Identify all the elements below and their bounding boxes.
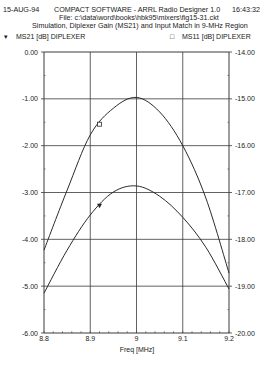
y-tick-label-left: -4.00 [22, 236, 38, 243]
y-tick-label-right: -18.00 [235, 236, 255, 243]
y-tick-label-left: -2.00 [22, 142, 38, 149]
y-tick-label-right: -16.00 [235, 142, 255, 149]
axes: 0.00-14.00-1.00-15.00-2.00-16.00-3.00-17… [22, 49, 255, 343]
legend-marker-ms21: ▾ [4, 33, 8, 40]
y-tick-label-right: -15.00 [235, 95, 255, 102]
x-tick-label: 9.2 [224, 335, 234, 342]
y-tick-label-left: -1.00 [22, 95, 38, 102]
y-tick-label-right: -20.00 [235, 330, 255, 337]
y-tick-label-left: -3.00 [22, 189, 38, 196]
y-tick-label-left: -6.00 [22, 330, 38, 337]
series-marker-square-icon [98, 122, 102, 126]
legend-label-ms21: MS21 [dB] DIPLEXER [16, 33, 85, 41]
y-tick-label-right: -17.00 [235, 189, 255, 196]
legend-marker-ms11: □ [170, 33, 175, 40]
legend-label-ms11: MS11 [dB] DIPLEXER [182, 33, 251, 41]
grid [44, 52, 229, 333]
y-tick-label-left: 0.00 [24, 49, 38, 56]
chart-canvas: 0.00-14.00-1.00-15.00-2.00-16.00-3.00-17… [0, 0, 276, 371]
x-tick-label: 9 [135, 335, 139, 342]
y-tick-label-right: -14.00 [235, 49, 255, 56]
y-tick-label-left: -5.00 [22, 283, 38, 290]
x-axis-label: Freq [MHz] [120, 346, 155, 354]
x-tick-label: 9.1 [178, 335, 188, 342]
x-tick-label: 8.9 [85, 335, 95, 342]
x-tick-label: 8.8 [39, 335, 49, 342]
y-tick-label-right: -19.00 [235, 283, 255, 290]
legend: ▾ MS21 [dB] DIPLEXER □ MS11 [dB] DIPLEXE… [4, 33, 251, 41]
